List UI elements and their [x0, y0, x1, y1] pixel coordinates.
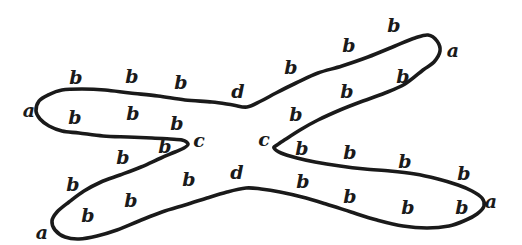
curve-label-b: b — [158, 135, 171, 157]
diagram-canvas: aaaaccddbbbbbbbbbbbbbbbbbbbbbbbbbb — [0, 0, 522, 245]
curve-label-b: b — [295, 137, 308, 159]
curve-label-b: b — [340, 80, 353, 102]
curve-label-b: b — [182, 168, 195, 190]
curve-label-b: b — [66, 173, 79, 195]
curve-label-b: b — [170, 112, 183, 134]
curve-label-b: b — [116, 146, 129, 168]
curve-labels: aaaaccddbbbbbbbbbbbbbbbbbbbbbbbbbb — [23, 14, 497, 243]
curve-label-a: a — [447, 39, 459, 61]
curve-label-a: a — [23, 99, 35, 121]
curve-label-d: d — [230, 161, 243, 183]
labeled-curve-diagram: aaaaccddbbbbbbbbbbbbbbbbbbbbbbbbbb — [0, 0, 522, 245]
curve-label-b: b — [343, 141, 356, 163]
curve-label-c: c — [193, 129, 205, 151]
curve-label-b: b — [387, 14, 400, 36]
curve-label-b: b — [174, 71, 187, 93]
curve-label-b: b — [126, 102, 139, 124]
curve-label-b: b — [457, 162, 470, 184]
curve-label-b: b — [401, 196, 414, 218]
curve-label-b: b — [68, 106, 81, 128]
curve-label-b: b — [81, 204, 94, 226]
curve-label-b: b — [398, 150, 411, 172]
curve-label-b: b — [125, 65, 138, 87]
curve-label-a: a — [36, 221, 48, 243]
curve-label-c: c — [258, 128, 270, 150]
curve-label-b: b — [343, 185, 356, 207]
curve-label-b: b — [289, 103, 302, 125]
curve-label-b: b — [284, 56, 297, 78]
curve-label-b: b — [296, 170, 309, 192]
curve-label-b: b — [455, 196, 468, 218]
curve-label-b: b — [342, 34, 355, 56]
curve-label-d: d — [231, 80, 244, 102]
curve-label-b: b — [396, 65, 409, 87]
curve-label-b: b — [69, 66, 82, 88]
curve-label-b: b — [124, 189, 137, 211]
curve-label-a: a — [485, 190, 497, 212]
